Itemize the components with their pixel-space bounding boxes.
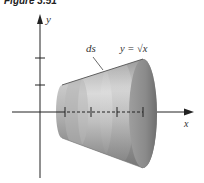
x-axis-label: x (183, 118, 189, 129)
curve-label: y = √x (119, 43, 148, 54)
surface-of-revolution-diagram: y x ds y = √x (0, 0, 204, 183)
y-axis-arrow-icon (37, 14, 43, 24)
ds-label: ds (86, 42, 96, 54)
y-axis (35, 14, 45, 178)
ds-leader-line (93, 57, 103, 70)
x-axis-arrow-icon (184, 109, 194, 116)
y-axis-label: y (45, 13, 51, 25)
surface-of-revolution (56, 59, 157, 168)
